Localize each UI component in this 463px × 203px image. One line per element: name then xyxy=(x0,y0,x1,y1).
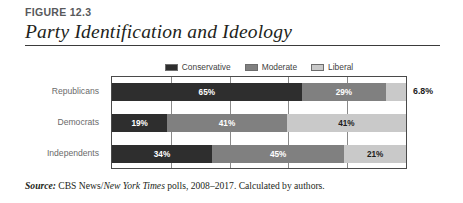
bar-segment-value: 45% xyxy=(270,150,286,159)
bar-outside-value: 6.8% xyxy=(413,86,433,96)
bar-segment-conservative: 65% xyxy=(112,83,302,101)
bar-segment-moderate: 45% xyxy=(212,145,344,163)
category-label-independents: Independents xyxy=(0,148,99,158)
chart-legend: ConservativeModerateLiberal xyxy=(111,62,407,72)
category-label-democrats: Democrats xyxy=(0,117,99,127)
category-label-republicans: Republicans xyxy=(0,86,99,96)
legend-swatch-icon xyxy=(311,64,324,71)
legend-item-moderate[interactable]: Moderate xyxy=(245,62,297,72)
legend-label: Conservative xyxy=(182,62,231,72)
bar-row: 34%45%21% xyxy=(112,145,406,163)
legend-swatch-icon xyxy=(245,64,258,71)
bar-segment-value: 21% xyxy=(367,150,383,159)
legend-label: Liberal xyxy=(328,62,353,72)
bar-segment-liberal: 21% xyxy=(344,145,406,163)
category-axis-labels: RepublicansDemocratsIndependents xyxy=(0,76,105,169)
bar-segment-liberal: 41% xyxy=(287,114,406,132)
title-divider xyxy=(25,45,440,46)
source-prefix: Source: xyxy=(25,180,56,191)
legend-label: Moderate xyxy=(262,62,297,72)
bar-row: 65%29% xyxy=(112,83,406,101)
source-text-after: polls, 2008–2017. Calculated by authors. xyxy=(165,180,325,191)
chart-bars: 65%29%19%41%41%34%45%21% xyxy=(112,77,406,168)
bar-segment-moderate: 29% xyxy=(302,83,387,101)
bar-segment-conservative: 19% xyxy=(112,114,167,132)
bar-segment-value: 19% xyxy=(131,119,147,128)
bar-segment-moderate: 41% xyxy=(167,114,286,132)
page-title: Party Identification and Ideology xyxy=(25,21,440,43)
legend-item-conservative[interactable]: Conservative xyxy=(165,62,231,72)
bar-segment-value: 34% xyxy=(154,150,170,159)
bar-segment-conservative: 34% xyxy=(112,145,212,163)
source-text-before: CBS News/ xyxy=(56,180,103,191)
bar-segment-liberal xyxy=(386,83,406,101)
bar-row: 19%41%41% xyxy=(112,114,406,132)
bar-segment-value: 29% xyxy=(336,88,352,97)
bar-segment-value: 41% xyxy=(338,119,354,128)
bar-segment-value: 65% xyxy=(199,88,215,97)
source-note: Source: CBS News/New York Times polls, 2… xyxy=(25,180,325,191)
source-publication: New York Times xyxy=(103,180,165,191)
bar-segment-value: 41% xyxy=(219,119,235,128)
figure-header: FIGURE 12.3 Party Identification and Ide… xyxy=(25,6,440,46)
legend-swatch-icon xyxy=(165,64,178,71)
chart-plot-area: 65%29%19%41%41%34%45%21% xyxy=(111,76,407,169)
figure-number: FIGURE 12.3 xyxy=(25,6,440,18)
legend-item-liberal[interactable]: Liberal xyxy=(311,62,353,72)
